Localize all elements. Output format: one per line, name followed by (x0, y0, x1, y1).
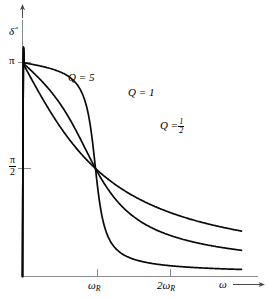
q-value: 5 (89, 71, 95, 83)
x-axis-ticks (98, 269, 171, 277)
fraction-numerator: π (9, 155, 16, 167)
curve-q-1 (23, 48, 242, 277)
x-tick-label-omega-r: ωR (88, 280, 101, 293)
fraction-denominator: 2 (178, 127, 184, 135)
q-symbol: Q (68, 71, 76, 83)
plot-canvas (0, 0, 268, 298)
y-tick-label-pi: π (9, 55, 15, 66)
curve-q-5 (23, 47, 242, 277)
data-curves (23, 47, 242, 277)
q-symbol: Q (128, 86, 136, 98)
omega-subscript: R (96, 284, 101, 293)
y-axis-arrow (20, 4, 25, 18)
equals-sign: = (139, 86, 146, 98)
y-tick-label-pi-over-2: π 2 (9, 155, 16, 177)
x-axis-arrow (233, 282, 265, 287)
x-axis-label: ω (219, 279, 227, 290)
omega-symbol: ω (88, 279, 96, 291)
q-value: 1 (149, 86, 155, 98)
fraction-one-half: 1 2 (178, 118, 184, 135)
y-axis-label: δ̂ (9, 26, 14, 37)
equals-sign: = (171, 119, 178, 131)
omega-subscript: R (170, 284, 175, 293)
phase-response-figure: δ̂ π π 2 ωR 2ωR ω Q = 5 Q = 1 Q = 1 2 (0, 0, 268, 298)
axis-lines (20, 4, 265, 287)
fraction-pi-over-2: π 2 (9, 155, 16, 177)
q-symbol: Q (160, 119, 168, 131)
equals-sign: = (79, 71, 86, 83)
y-axis-ticks (18, 63, 31, 169)
curve-annotation-q-one-half: Q = 1 2 (160, 118, 184, 135)
x-tick-label-2-omega-r: 2ωR (157, 280, 175, 293)
curve-annotation-q-1: Q = 1 (128, 87, 154, 98)
curve-q-one-half (23, 49, 242, 277)
curve-annotation-q-5: Q = 5 (68, 72, 94, 83)
fraction-denominator: 2 (9, 167, 16, 178)
